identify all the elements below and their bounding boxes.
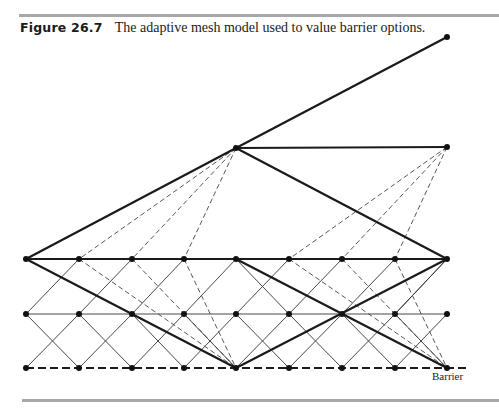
mesh-node xyxy=(339,365,345,371)
barrier-label: Barrier xyxy=(432,370,463,382)
mesh-node xyxy=(339,256,345,262)
dashed-mesh-line xyxy=(289,147,447,259)
coarse-mesh-line xyxy=(236,37,447,148)
mesh-node xyxy=(129,365,135,371)
mesh-node xyxy=(23,311,29,317)
mesh-node xyxy=(339,311,345,317)
mesh-node xyxy=(286,256,292,262)
mesh-node xyxy=(444,256,450,262)
mesh-node xyxy=(76,365,82,371)
coarse-mesh-line xyxy=(236,148,447,259)
mesh-node xyxy=(76,311,82,317)
mesh-node xyxy=(23,365,29,371)
mesh-node xyxy=(233,365,239,371)
dashed-mesh-line xyxy=(395,147,447,259)
mesh-node xyxy=(444,144,450,150)
dashed-mesh-line xyxy=(184,259,236,368)
fine-mesh-line xyxy=(184,259,236,314)
mesh-node xyxy=(233,145,239,151)
coarse-mesh-lines xyxy=(26,37,447,368)
mesh-node xyxy=(129,311,135,317)
dashed-mesh-line xyxy=(289,259,447,368)
adaptive-mesh-diagram xyxy=(0,0,499,411)
mesh-node xyxy=(233,256,239,262)
bottom-rule xyxy=(22,399,499,402)
mesh-node xyxy=(286,311,292,317)
fine-mesh-line xyxy=(26,259,79,314)
dashed-mesh-line xyxy=(342,147,447,259)
mesh-node xyxy=(392,311,398,317)
fine-mesh-line xyxy=(395,259,447,314)
mesh-node xyxy=(129,256,135,262)
mesh-node xyxy=(444,34,450,40)
dashed-mesh-line xyxy=(79,259,236,368)
coarse-mesh-line xyxy=(26,148,236,259)
mesh-node xyxy=(181,365,187,371)
fine-mesh-line xyxy=(79,259,132,314)
dashed-mesh-line xyxy=(79,148,236,259)
dashed-mesh-line xyxy=(395,259,447,368)
mesh-node xyxy=(286,365,292,371)
mesh-node xyxy=(444,311,450,317)
mesh-nodes xyxy=(23,34,450,371)
mesh-node xyxy=(76,256,82,262)
fine-mesh-line xyxy=(289,259,342,314)
coarse-mesh-line xyxy=(236,147,447,148)
mesh-node xyxy=(181,256,187,262)
dashed-mesh-line xyxy=(132,148,236,259)
mesh-node xyxy=(233,311,239,317)
dashed-mesh-line xyxy=(184,148,236,259)
mesh-node xyxy=(392,365,398,371)
mesh-node xyxy=(23,256,29,262)
mesh-node xyxy=(392,256,398,262)
mesh-node xyxy=(181,311,187,317)
